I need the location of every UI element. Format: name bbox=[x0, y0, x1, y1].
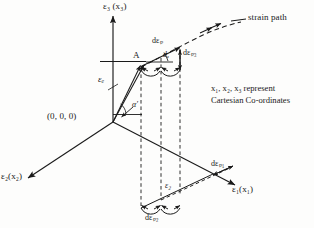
component-brace-upper bbox=[141, 68, 180, 77]
axis-label-epsilon3: ε₃ (x₃) bbox=[103, 1, 127, 11]
axis-epsilon1 bbox=[113, 122, 235, 185]
plastic-increment-label: dεₚ bbox=[152, 37, 163, 46]
point-a-label: A bbox=[133, 50, 140, 60]
elastic-strain-label: εₑ bbox=[98, 74, 104, 84]
strain-path-leader bbox=[231, 19, 246, 21]
plastic-increment-vector bbox=[141, 48, 180, 67]
strain-path-label: strain path bbox=[248, 12, 287, 22]
projection-epsilon2-label: ε₂ bbox=[165, 182, 171, 191]
axis-epsilon2 bbox=[28, 122, 113, 178]
angle-d-alpha-label: dₐ′ bbox=[163, 51, 171, 59]
axis-label-epsilon1: ε₁(x₁) bbox=[232, 184, 253, 194]
projection-lines bbox=[141, 49, 180, 208]
axis-label-epsilon2: ε₂(x₂) bbox=[1, 171, 22, 181]
origin-label: (0, 0, 0) bbox=[47, 111, 76, 121]
coordinate-note-line2: Cartesian Co-ordinates bbox=[211, 95, 290, 107]
angle-alpha-label: α′ bbox=[132, 101, 138, 110]
component-dep1-label: dεₚ₁ bbox=[211, 160, 225, 169]
coordinate-note-line1: x₁, x₂, x₃ represent bbox=[211, 83, 290, 95]
coordinate-note: x₁, x₂, x₃ represent Cartesian Co-ordina… bbox=[211, 83, 290, 106]
base-projection-lines bbox=[141, 166, 233, 208]
component-dep2-label: dεₚ₂ bbox=[145, 214, 159, 223]
component-dep3-label: dεₚ₃ bbox=[183, 49, 197, 58]
